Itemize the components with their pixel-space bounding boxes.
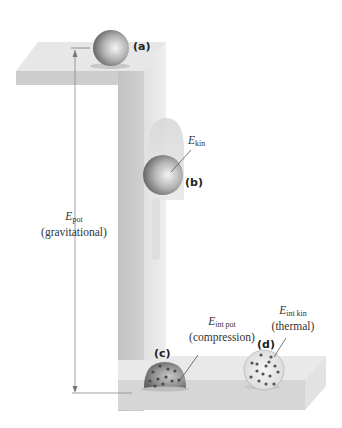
energy-diagram: (a) (b) (c) (d) Ekin Epot (gravitational…	[0, 0, 342, 428]
e-int-pot-label: Eint pot (compression)	[176, 315, 268, 343]
e-int-kin-label: Eint kin (thermal)	[262, 304, 324, 332]
ball-b	[143, 155, 183, 195]
label-c: (c)	[154, 347, 171, 360]
arrow-down-head	[73, 386, 78, 393]
ball-c-shadow	[141, 387, 189, 392]
e-kin-label: Ekin	[188, 134, 205, 150]
e-int-kin-pointer	[274, 338, 286, 357]
e-pot-description: (gravitational)	[28, 226, 120, 238]
ball-a	[93, 30, 129, 66]
ball-d	[244, 350, 284, 390]
label-a: (a)	[133, 40, 150, 53]
e-int-pot-description: (compression)	[176, 331, 268, 343]
label-b: (b)	[185, 176, 203, 189]
e-int-kin-description: (thermal)	[262, 320, 324, 332]
motion-trail-lower	[152, 198, 160, 260]
e-pot-label: Epot (gravitational)	[28, 210, 120, 238]
